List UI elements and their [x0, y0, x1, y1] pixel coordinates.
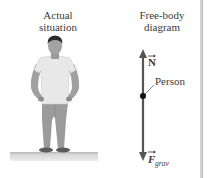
page-edge-border-dark [202, 0, 203, 178]
normal-force-label: N [148, 55, 156, 69]
normal-force-arrowhead [139, 49, 147, 58]
normal-force-symbol: N [148, 56, 156, 68]
person-label: Person [155, 75, 185, 87]
illustration-canvas: N Person F grav [0, 0, 208, 178]
gravity-force-label: F grav [147, 151, 169, 169]
person-figure [31, 36, 79, 153]
person-leader-line [145, 85, 154, 94]
gravity-force-arrowhead [139, 152, 147, 161]
ground-platform [10, 152, 98, 161]
gravity-force-subscript: grav [155, 159, 169, 168]
